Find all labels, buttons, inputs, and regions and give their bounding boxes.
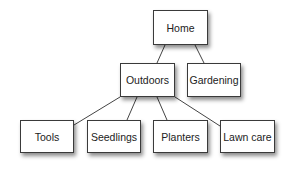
node-home: Home <box>153 10 208 45</box>
node-label: Gardening <box>189 74 238 86</box>
node-label: Tools <box>35 131 60 143</box>
node-lawn-care: Lawn care <box>220 120 275 153</box>
edge-home-gardening <box>195 45 204 63</box>
edge-outdoors-seedlings <box>127 97 137 120</box>
node-planters: Planters <box>153 120 208 153</box>
node-gardening: Gardening <box>187 63 241 97</box>
node-label: Seedlings <box>91 131 137 143</box>
node-seedlings: Seedlings <box>87 120 141 153</box>
node-label: Home <box>166 22 194 34</box>
node-tools: Tools <box>20 120 74 153</box>
edge-home-outdoors <box>157 45 165 63</box>
node-label: Lawn care <box>223 131 271 143</box>
node-outdoors: Outdoors <box>120 63 175 97</box>
node-label: Planters <box>161 131 200 143</box>
node-label: Outdoors <box>126 74 169 86</box>
edge-outdoors-planters <box>157 97 167 120</box>
